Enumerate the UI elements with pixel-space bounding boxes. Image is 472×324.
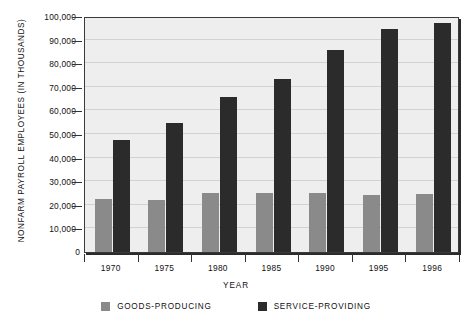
x-axis-title: YEAR	[0, 281, 472, 290]
x-tick-mark	[459, 254, 460, 262]
y-tick-mark	[72, 229, 82, 230]
bar-group	[95, 18, 130, 252]
x-tick-label: 1975	[134, 263, 194, 273]
bar-service-providing	[274, 79, 291, 252]
bar-goods-producing	[309, 193, 326, 252]
y-tick-mark	[72, 135, 82, 136]
x-tick-mark	[191, 254, 192, 262]
legend-label: GOODS-PRODUCING	[117, 302, 212, 311]
x-tick-label: 1990	[295, 263, 355, 273]
x-tick-mark	[298, 254, 299, 262]
chart-legend: GOODS-PRODUCINGSERVICE-PROVIDING	[0, 302, 472, 311]
y-tick-mark	[72, 64, 82, 65]
bar-group	[256, 18, 291, 252]
y-tick-label: 50,000	[16, 130, 76, 140]
x-tick-mark	[138, 254, 139, 262]
bar-service-providing	[113, 140, 130, 252]
legend-label: SERVICE-PROVIDING	[274, 302, 371, 311]
x-tick-label: 1995	[349, 263, 409, 273]
bar-goods-producing	[416, 194, 433, 252]
bar-service-providing	[327, 50, 344, 252]
bar-goods-producing	[95, 199, 112, 252]
legend-item: GOODS-PRODUCING	[101, 302, 212, 311]
bar-group	[416, 18, 451, 252]
bar-group	[363, 18, 398, 252]
y-tick-mark	[72, 159, 82, 160]
bar-goods-producing	[363, 195, 380, 252]
y-tick-mark	[72, 111, 82, 112]
bar-goods-producing	[256, 193, 273, 252]
y-tick-mark	[72, 17, 82, 18]
y-tick-label: 100,000	[16, 12, 76, 22]
legend-swatch-service-providing	[258, 302, 267, 311]
plot-area	[84, 17, 459, 253]
bar-goods-producing	[148, 200, 165, 252]
y-tick-label-zero: 0	[24, 247, 80, 257]
y-tick-label: 70,000	[16, 83, 76, 93]
x-tick-mark	[245, 254, 246, 262]
x-tick-label: 1970	[81, 263, 141, 273]
bar-service-providing	[166, 123, 183, 252]
legend-item: SERVICE-PROVIDING	[258, 302, 371, 311]
bar-goods-producing	[202, 193, 219, 252]
x-tick-label: 1980	[188, 263, 248, 273]
x-tick-label: 1985	[242, 263, 302, 273]
y-tick-mark	[72, 182, 82, 183]
y-tick-label: 90,000	[16, 36, 76, 46]
y-tick-label: 60,000	[16, 106, 76, 116]
x-tick-mark	[405, 254, 406, 262]
bar-group	[148, 18, 183, 252]
plot-inner	[85, 18, 458, 252]
bar-group	[309, 18, 344, 252]
x-tick-mark	[352, 254, 353, 262]
y-tick-label: 80,000	[16, 59, 76, 69]
y-tick-label: 20,000	[16, 201, 76, 211]
y-tick-mark	[72, 206, 82, 207]
y-tick-label: 10,000	[16, 224, 76, 234]
bar-service-providing	[434, 23, 451, 252]
x-tick-label: 1996	[402, 263, 462, 273]
bar-group	[202, 18, 237, 252]
y-tick-mark	[72, 41, 82, 42]
bar-chart-figure: NONFARM PAYROLL EMPLOYEES (IN THOUSANDS)…	[0, 0, 472, 324]
y-tick-mark	[72, 88, 82, 89]
y-tick-label: 40,000	[16, 154, 76, 164]
bar-service-providing	[381, 29, 398, 252]
bar-service-providing	[220, 97, 237, 252]
legend-swatch-goods-producing	[101, 302, 110, 311]
x-tick-mark	[84, 254, 85, 262]
y-tick-label: 30,000	[16, 177, 76, 187]
